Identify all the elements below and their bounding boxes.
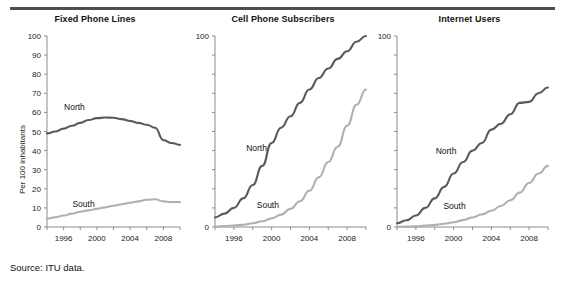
chart-panel-cell-phone-subscribers: Cell Phone Subscribers 01001996200020042… <box>190 14 376 258</box>
x-tick-label: 2008 <box>520 234 538 243</box>
y-tick-label: 40 <box>32 147 41 156</box>
x-tick-label: 2004 <box>300 234 318 243</box>
plot-area-internet-users: 01001996200020042008NorthSouth <box>376 14 563 258</box>
y-tick-label: 90 <box>32 51 41 60</box>
top-rule-divider <box>10 7 555 10</box>
series-label-south: South <box>257 200 279 210</box>
x-tick-label: 2004 <box>121 234 139 243</box>
y-tick-label: 100 <box>28 32 42 41</box>
y-tick-label: 100 <box>378 32 392 41</box>
y-tick-label: 0 <box>387 223 392 232</box>
y-tick-label: 60 <box>32 108 41 117</box>
y-axis-title: Per 100 inhabitants <box>18 125 27 194</box>
chart-panel-fixed-phone-lines: Fixed Phone Lines 0102030405060708090100… <box>0 14 190 258</box>
figure-root: Fixed Phone Lines 0102030405060708090100… <box>0 0 563 287</box>
x-tick-label: 1996 <box>55 234 73 243</box>
x-tick-label: 2000 <box>88 234 106 243</box>
plot-area-fixed-phone-lines: 01020304050607080901001996200020042008No… <box>0 14 190 258</box>
y-tick-label: 50 <box>32 128 41 137</box>
series-label-north: North <box>64 102 85 112</box>
y-tick-label: 0 <box>205 223 210 232</box>
x-tick-label: 2000 <box>263 234 281 243</box>
plot-area-cell-phone-subscribers: 01001996200020042008NorthSouth <box>190 14 376 258</box>
y-tick-label: 20 <box>32 185 41 194</box>
series-line-north <box>397 88 548 224</box>
series-label-north: North <box>436 146 457 156</box>
series-label-north: North <box>246 143 267 153</box>
x-tick-label: 1996 <box>225 234 243 243</box>
series-label-south: South <box>443 201 465 211</box>
y-tick-label: 30 <box>32 166 41 175</box>
series-label-south: South <box>72 199 94 209</box>
y-tick-label: 0 <box>37 223 42 232</box>
chart-panels: Fixed Phone Lines 0102030405060708090100… <box>0 14 563 258</box>
y-tick-label: 80 <box>32 70 41 79</box>
series-line-south <box>397 166 548 227</box>
series-line-north <box>215 36 366 217</box>
y-tick-label: 100 <box>196 32 210 41</box>
chart-panel-internet-users: Internet Users 01001996200020042008North… <box>376 14 563 258</box>
y-tick-label: 10 <box>32 204 41 213</box>
x-tick-label: 2004 <box>482 234 500 243</box>
x-tick-label: 1996 <box>407 234 425 243</box>
y-tick-label: 70 <box>32 89 41 98</box>
x-tick-label: 2008 <box>338 234 356 243</box>
x-tick-label: 2008 <box>154 234 172 243</box>
series-line-south <box>47 199 180 218</box>
source-note: Source: ITU data. <box>10 262 84 273</box>
series-line-north <box>47 118 180 145</box>
x-tick-label: 2000 <box>445 234 463 243</box>
